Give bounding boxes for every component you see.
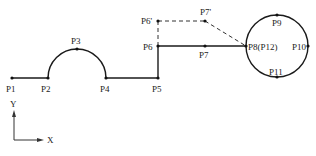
label-p4: P4 bbox=[100, 84, 110, 94]
label-p6-prime: P6' bbox=[141, 16, 153, 26]
arc-p2-p3-p4 bbox=[48, 49, 106, 78]
x-arrow-icon bbox=[37, 138, 44, 142]
coordinate-axes: Y X bbox=[10, 99, 54, 145]
dashed-p7prime-p8 bbox=[205, 21, 246, 46]
label-p9: P9 bbox=[272, 18, 282, 28]
label-p8-p12: P8(P12) bbox=[248, 42, 278, 52]
label-p2: P2 bbox=[41, 84, 51, 94]
path-diagram: P1 P2 P3 P4 P5 P6 P6' P7' P7 P8(P12) P9 … bbox=[0, 0, 316, 156]
label-p3: P3 bbox=[71, 36, 81, 46]
label-p7: P7 bbox=[199, 50, 209, 60]
label-p6: P6 bbox=[143, 42, 153, 52]
label-p5: P5 bbox=[152, 84, 162, 94]
label-p1: P1 bbox=[6, 84, 16, 94]
label-p10: P10 bbox=[292, 42, 307, 52]
label-p11: P11 bbox=[269, 67, 283, 77]
x-axis-label: X bbox=[47, 135, 54, 145]
label-p7-prime: P7' bbox=[200, 7, 212, 17]
y-arrow-icon bbox=[12, 110, 16, 117]
y-axis-label: Y bbox=[10, 99, 17, 109]
